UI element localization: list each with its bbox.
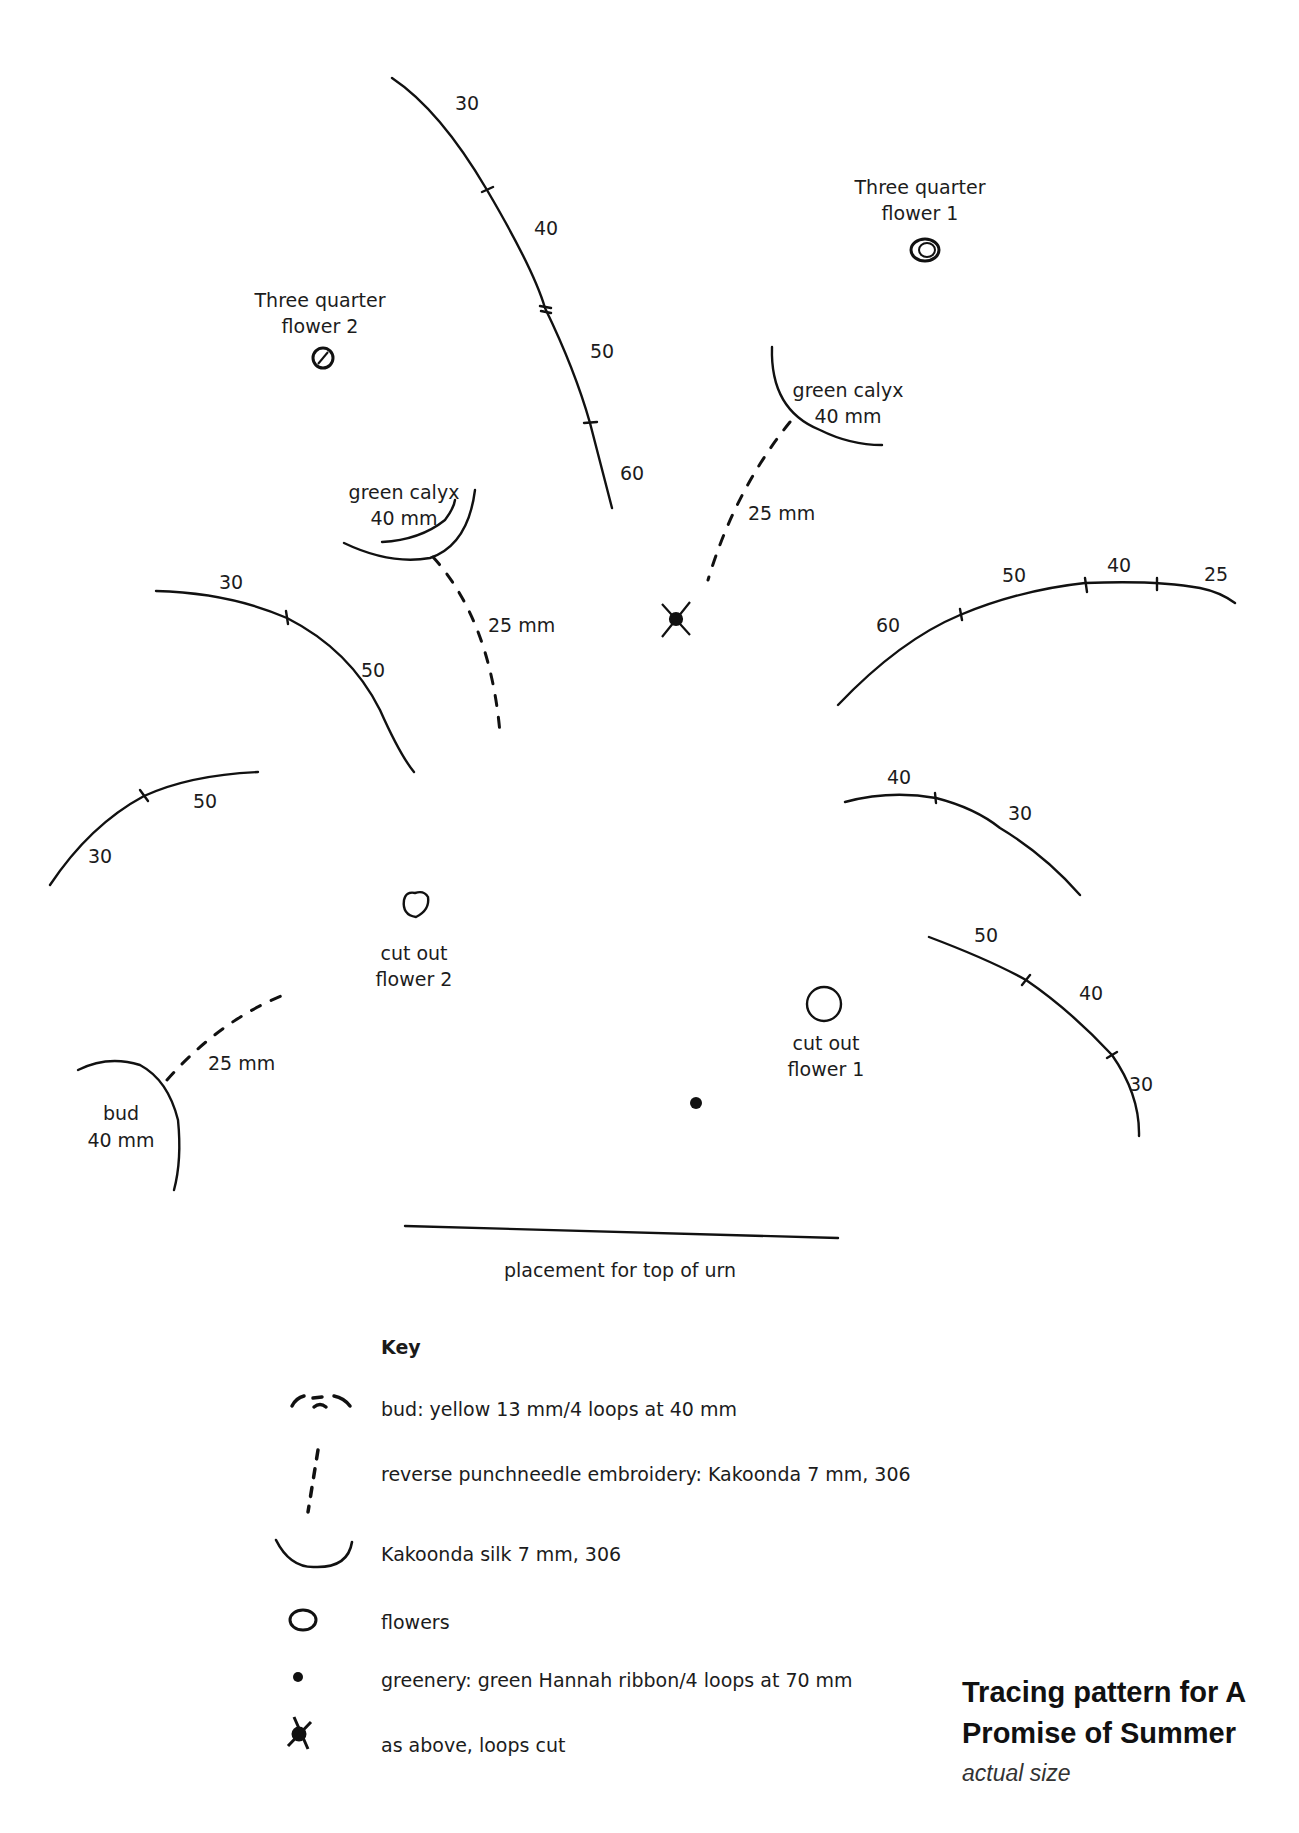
- loops-cut-icon: [662, 602, 690, 637]
- key-item-punchneedle: reverse punchneedle embroidery: Kakoonda…: [381, 1463, 911, 1485]
- label-three-quarter-flower-1-line2: flower 1: [882, 200, 959, 226]
- label-bud-line2: 40 mm: [87, 1127, 154, 1153]
- arc-left-lower-label: 30: [88, 843, 112, 869]
- flower-circle-icon: [290, 1610, 316, 1630]
- arc-right-upper-label: 40: [1107, 552, 1131, 578]
- dot-icon: [293, 1672, 303, 1682]
- cut-out-flower-2-icon: [404, 892, 429, 917]
- arc-top-label: 50: [590, 338, 614, 364]
- label-cut-out-flower-2-line1: cut out: [380, 940, 447, 966]
- page-title: Tracing pattern for A Promise of Summer: [962, 1672, 1246, 1754]
- label-urn-placement: placement for top of urn: [504, 1257, 736, 1283]
- greenery-dot-icon: [690, 1097, 702, 1109]
- cross-dot-icon: [288, 1717, 311, 1749]
- key-item-kakoonda-silk: Kakoonda silk 7 mm, 306: [381, 1543, 621, 1565]
- arc-right-mid-label: 40: [887, 764, 911, 790]
- key-item-greenery: greenery: green Hannah ribbon/4 loops at…: [381, 1669, 853, 1691]
- label-stem-right: 25 mm: [748, 500, 815, 526]
- arc-right-lower-label: 40: [1079, 980, 1103, 1006]
- pattern-drawing: [0, 0, 1299, 1833]
- urn-line: [405, 1226, 838, 1238]
- label-three-quarter-flower-2-line1: Three quarter: [255, 287, 386, 313]
- cut-out-flower-1-icon: [807, 987, 841, 1021]
- stem-left: [433, 557, 500, 733]
- arc-top-label: 40: [534, 215, 558, 241]
- label-bud-line1: bud: [103, 1100, 139, 1126]
- arc-right-mid-label: 30: [1008, 800, 1032, 826]
- label-three-quarter-flower-2-line2: flower 2: [282, 313, 359, 339]
- arc-right-upper: [838, 582, 1235, 705]
- label-cut-out-flower-1-line2: flower 1: [788, 1056, 865, 1082]
- page-title-line1: Tracing pattern for A: [962, 1672, 1246, 1713]
- label-calyx-right-line2: 40 mm: [814, 403, 881, 429]
- label-calyx-right-line1: green calyx: [793, 377, 904, 403]
- dashed-line-icon: [308, 1450, 318, 1512]
- arc-top-label: 60: [620, 460, 644, 486]
- arc-top: [392, 78, 612, 508]
- key-item-loops-cut: as above, loops cut: [381, 1734, 565, 1756]
- arc-right-mid: [845, 795, 1080, 895]
- arc-left-upper-label: 50: [361, 657, 385, 683]
- key-item-flowers: flowers: [381, 1611, 450, 1633]
- arc-right-lower-label: 50: [974, 922, 998, 948]
- label-stem-bud: 25 mm: [208, 1050, 275, 1076]
- label-cut-out-flower-2-line2: flower 2: [376, 966, 453, 992]
- arc-right-upper-label: 50: [1002, 562, 1026, 588]
- arc-left-lower: [50, 772, 258, 885]
- label-calyx-left-line1: green calyx: [349, 479, 460, 505]
- arc-right-upper-label: 25: [1204, 561, 1228, 587]
- arc-icon: [276, 1540, 352, 1567]
- key-item-bud: bud: yellow 13 mm/4 loops at 40 mm: [381, 1398, 737, 1420]
- label-three-quarter-flower-1-line1: Three quarter: [855, 174, 986, 200]
- arc-left-lower-label: 50: [193, 788, 217, 814]
- arc-right-lower-label: 30: [1129, 1071, 1153, 1097]
- arc-left-upper-label: 30: [219, 569, 243, 595]
- page-subtitle: actual size: [962, 1760, 1071, 1787]
- label-stem-left: 25 mm: [488, 612, 555, 638]
- arc-right-lower: [929, 937, 1139, 1136]
- label-calyx-left-line2: 40 mm: [370, 505, 437, 531]
- bud-icon: [292, 1396, 350, 1407]
- arc-top-label: 30: [455, 90, 479, 116]
- arc-right-upper-label: 60: [876, 612, 900, 638]
- page-title-line2: Promise of Summer: [962, 1713, 1246, 1754]
- key-title: Key: [381, 1336, 421, 1358]
- label-cut-out-flower-1-line1: cut out: [792, 1030, 859, 1056]
